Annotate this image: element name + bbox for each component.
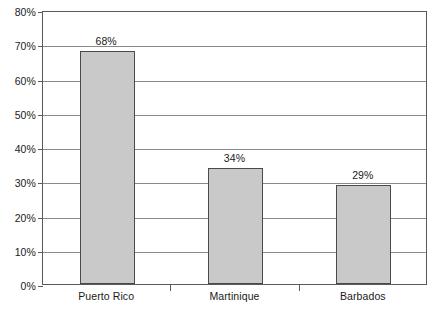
bar-chart: 0%10%20%30%40%50%60%70%80% 68%34%29% Pue… [0,0,435,312]
y-axis-tick [38,218,43,219]
y-axis-tick [38,252,43,253]
y-axis-label: 30% [15,178,36,189]
bar[interactable] [80,51,135,284]
bar-value-label: 68% [95,36,116,47]
y-axis-label: 10% [15,247,36,258]
bar[interactable] [336,185,391,284]
y-axis-label: 0% [21,281,36,292]
plot-area: 0%10%20%30%40%50%60%70%80% [42,11,427,285]
y-axis-tick [38,286,43,287]
y-axis-tick [38,81,43,82]
x-axis-category-label: Puerto Rico [78,291,134,302]
bar-value-label: 34% [224,153,245,164]
y-axis-label: 40% [15,144,36,155]
y-axis-label: 70% [15,41,36,52]
bar-value-label: 29% [352,170,373,181]
bar[interactable] [208,168,263,284]
y-axis-tick [38,183,43,184]
y-axis-tick [38,46,43,47]
y-axis-label: 60% [15,75,36,86]
y-axis-label: 20% [15,212,36,223]
y-axis-tick [38,115,43,116]
y-axis-label: 50% [15,110,36,121]
y-axis-tick [38,12,43,13]
y-axis-tick [38,149,43,150]
x-axis-tick [299,285,300,291]
x-axis-tick [170,285,171,291]
x-axis-category-label: Barbados [340,291,386,302]
x-axis-category-label: Martinique [209,291,259,302]
y-axis-label: 80% [15,7,36,18]
